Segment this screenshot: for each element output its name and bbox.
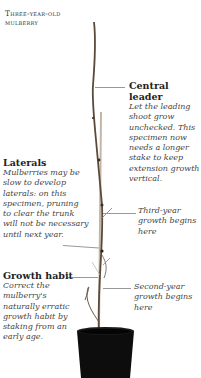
annotation-heading: Growth habit [3,270,75,281]
annotation-body: Let the leading shoot grow unchecked. Th… [129,102,201,184]
leader-line-central-leader [95,87,125,88]
annotation-third-year: Third-year growth begins here [138,206,201,237]
annotation-body: Correct the mulberry's naturally erratic… [3,281,75,343]
leader-line-second-year [103,288,131,289]
annotation-body: Mulberries may be slow to develop latera… [3,168,98,240]
plant-pot [77,328,134,378]
annotation-growth-habit: Growth habit Correct the mulberry's natu… [3,270,75,343]
annotation-body: Third-year growth begins here [138,206,201,237]
leader-line-third-year [103,213,136,214]
annotation-body: Second-year growth begins here [134,282,201,313]
annotation-laterals: Laterals Mulberries may be slow to devel… [3,157,98,240]
annotation-heading: Central leader [129,80,201,102]
annotation-heading: Laterals [3,157,98,168]
annotation-second-year: Second-year growth begins here [134,282,201,313]
annotation-central-leader: Central leader Let the leading shoot gro… [129,80,201,184]
